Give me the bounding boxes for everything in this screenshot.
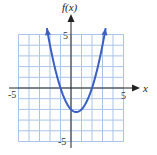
- y-axis-label: f(x): [62, 1, 78, 14]
- parabola-curve: [47, 28, 106, 112]
- y-tick-min: -5: [58, 136, 66, 147]
- x-tick-max: 5: [121, 90, 126, 101]
- x-axis-label: x: [142, 82, 148, 94]
- x-tick-min: -5: [8, 89, 16, 100]
- x-axis-arrow-icon: [132, 85, 140, 92]
- graph: f(x) x -5 5 5 -5: [0, 0, 157, 155]
- y-axis-arrow-icon: [68, 14, 75, 22]
- y-tick-max: 5: [63, 30, 68, 41]
